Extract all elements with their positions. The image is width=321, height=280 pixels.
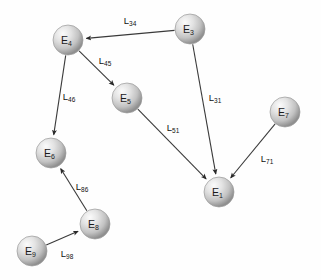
graph-svg: E1E3E4E5E6E7E8E9 L34L45L46L31L51L71L86L9… [0, 0, 321, 280]
node-subscript-e1: 1 [219, 192, 223, 199]
node-subscript-e3: 3 [190, 29, 194, 36]
edge-l31 [193, 44, 216, 174]
edge-label-l45: L45 [99, 55, 112, 67]
edge-subscript-l31: 31 [214, 97, 222, 104]
diagram-canvas: E1E3E4E5E6E7E8E9 L34L45L46L31L51L71L86L9… [0, 0, 321, 280]
nodes-layer: E1E3E4E5E6E7E8E9 [17, 14, 300, 266]
edge-subscript-l71: 71 [266, 158, 274, 165]
edge-subscript-l46: 46 [68, 96, 76, 103]
edge-l51 [138, 109, 206, 179]
node-subscript-e7: 7 [285, 112, 289, 119]
node-e6[interactable]: E6 [36, 138, 66, 168]
edge-l45 [79, 51, 114, 85]
edge-subscript-l98: 98 [66, 253, 74, 260]
node-subscript-e4: 4 [68, 40, 72, 47]
node-e4[interactable]: E4 [53, 25, 83, 55]
node-subscript-e9: 9 [32, 251, 36, 258]
node-subscript-e8: 8 [95, 224, 99, 231]
node-e5[interactable]: E5 [112, 83, 142, 113]
node-e8[interactable]: E8 [80, 209, 110, 239]
edge-subscript-l86: 86 [81, 186, 89, 193]
node-e3[interactable]: E3 [175, 14, 205, 44]
edge-subscript-l34: 34 [129, 20, 137, 27]
edge-label-l31: L31 [209, 92, 222, 104]
node-e1[interactable]: E1 [204, 177, 234, 207]
edge-label-l46: L46 [63, 91, 76, 103]
edge-l34 [86, 30, 174, 38]
edge-subscript-l45: 45 [104, 60, 112, 67]
edges-layer [46, 30, 275, 245]
edge-label-l86: L86 [76, 181, 89, 193]
edge-label-l51: L51 [167, 122, 180, 134]
node-subscript-e6: 6 [51, 153, 55, 160]
edge-l71 [231, 124, 275, 178]
edge-label-l71: L71 [261, 153, 274, 165]
node-e7[interactable]: E7 [270, 97, 300, 127]
node-subscript-e5: 5 [127, 98, 131, 105]
edge-label-l98: L98 [61, 248, 74, 260]
edge-subscript-l51: 51 [172, 127, 180, 134]
edge-label-l34: L34 [124, 15, 137, 27]
node-e9[interactable]: E9 [17, 236, 47, 266]
edge-l98 [46, 231, 78, 245]
